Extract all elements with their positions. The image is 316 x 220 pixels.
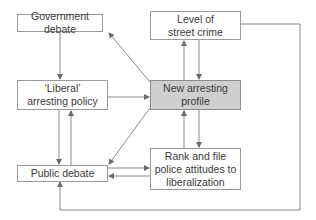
node-police-attitudes: Rank and file police attitudes to libera… <box>150 148 241 190</box>
edge-profile-to-public <box>109 108 150 164</box>
node-label: Rank and file police attitudes to libera… <box>153 150 238 189</box>
node-new-arresting-profile: New arresting profile <box>150 80 241 110</box>
node-label: New arresting profile <box>163 82 228 108</box>
node-label: Public debate <box>31 167 95 180</box>
node-label: Level of street crime <box>165 13 226 39</box>
edge-profile-to-gov <box>109 33 150 82</box>
node-label: Government debate <box>18 10 102 36</box>
node-public-debate: Public debate <box>17 165 108 182</box>
node-liberal-arresting-policy: ‘Liberal’ arresting policy <box>17 80 108 110</box>
node-government-debate: Government debate <box>17 14 103 32</box>
node-label: ‘Liberal’ arresting policy <box>24 82 101 108</box>
node-level-of-street-crime: Level of street crime <box>150 11 241 40</box>
